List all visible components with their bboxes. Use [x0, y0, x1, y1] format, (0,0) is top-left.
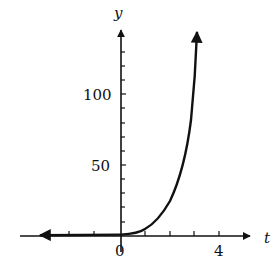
y-tick-label-100: 100: [83, 86, 112, 104]
exponential-chart: y t 100 50 0 4: [0, 0, 278, 277]
y-axis-label: y: [113, 4, 123, 22]
x-tick-label-4: 4: [214, 242, 224, 260]
exponential-curve: [121, 32, 197, 235]
curve-left-tail: [40, 235, 121, 236]
x-tick-label-0: 0: [115, 242, 125, 260]
x-axis-label: t: [264, 229, 271, 247]
y-tick-label-50: 50: [91, 157, 110, 175]
